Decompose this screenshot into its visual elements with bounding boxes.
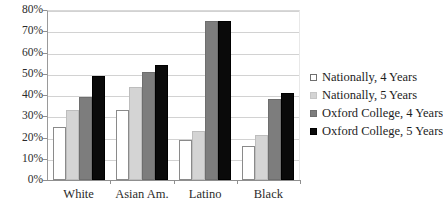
legend-swatch-icon: [310, 110, 317, 117]
x-axis-tick-mark: [237, 180, 238, 184]
bar: [192, 131, 205, 180]
y-axis-tick-label: 80%: [3, 4, 43, 16]
x-axis-tick-label: Black: [237, 188, 300, 201]
bar: [255, 135, 268, 180]
legend-swatch-icon: [310, 92, 317, 99]
bar: [53, 127, 66, 180]
x-axis-tick-mark: [174, 180, 175, 184]
bar: [218, 21, 231, 180]
y-axis-tick-label: 30%: [3, 111, 43, 123]
x-axis-tick-label: Asian Am.: [110, 188, 173, 201]
legend-item-label: Oxford College, 5 Years: [322, 125, 443, 138]
bar: [155, 65, 168, 180]
legend-item: Nationally, 4 Years: [310, 68, 438, 86]
legend-item-label: Nationally, 5 Years: [322, 89, 417, 102]
bar: [116, 110, 129, 180]
legend-swatch-icon: [310, 128, 317, 135]
bar: [66, 110, 79, 180]
y-axis-tick-label: 50%: [3, 68, 43, 80]
bar: [79, 97, 92, 180]
legend-item-label: Oxford College, 4 Years: [322, 107, 443, 120]
bars-layer: [47, 10, 300, 180]
legend-item: Oxford College, 5 Years: [310, 122, 438, 140]
bar: [179, 140, 192, 180]
bar: [205, 21, 218, 180]
bar-group: [242, 10, 294, 180]
bar: [281, 93, 294, 180]
y-axis-tick-label: 70%: [3, 26, 43, 38]
y-axis-tick-label: 20%: [3, 132, 43, 144]
y-axis-tick-label: 0%: [3, 174, 43, 186]
x-axis-tick-label: Latino: [174, 188, 237, 201]
chart-legend: Nationally, 4 YearsNationally, 5 YearsOx…: [310, 68, 438, 140]
bar: [92, 76, 105, 180]
bar-group: [179, 10, 231, 180]
legend-item-label: Nationally, 4 Years: [322, 71, 417, 84]
legend-swatch-icon: [310, 74, 317, 81]
bar: [268, 99, 281, 180]
bar: [142, 72, 155, 180]
legend-item: Nationally, 5 Years: [310, 86, 438, 104]
bar-group: [53, 10, 105, 180]
bar: [242, 146, 255, 180]
x-axis-tick-mark: [110, 180, 111, 184]
y-axis-tick-label: 60%: [3, 47, 43, 59]
bar-group: [116, 10, 168, 180]
y-axis: 0%10%20%30%40%50%60%70%80%: [0, 0, 43, 219]
x-axis-tick-mark: [300, 180, 301, 184]
y-axis-tick-label: 40%: [3, 89, 43, 101]
bar: [129, 87, 142, 181]
y-axis-tick-label: 10%: [3, 153, 43, 165]
x-axis-tick-label: White: [47, 188, 110, 201]
legend-item: Oxford College, 4 Years: [310, 104, 438, 122]
